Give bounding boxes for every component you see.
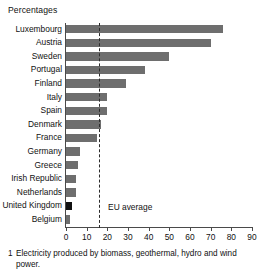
category-label: Irish Republic	[11, 172, 62, 185]
x-axis-tick	[128, 227, 129, 231]
bar	[66, 147, 80, 155]
bar	[66, 39, 211, 47]
bar	[66, 66, 145, 74]
bar	[66, 107, 107, 115]
bar	[66, 120, 101, 128]
bar	[66, 215, 70, 223]
category-label: Netherlands	[17, 186, 62, 199]
plot-area: LuxembourgAustriaSwedenPortugalFinlandIt…	[66, 23, 252, 227]
x-axis-tick	[252, 227, 253, 231]
category-label: Finland	[35, 77, 62, 90]
x-axis-tick-label: 0	[64, 232, 69, 242]
bar-row: Portugal	[66, 64, 252, 78]
category-label: Italy	[47, 91, 62, 104]
bar	[66, 52, 169, 60]
x-axis-tick	[107, 227, 108, 231]
eu-average-label: EU average	[108, 202, 152, 212]
bar-row: Italy	[66, 91, 252, 105]
category-label: Luxembourg	[15, 23, 62, 36]
x-axis-tick-label: 10	[82, 232, 91, 242]
x-axis-tick	[87, 227, 88, 231]
chart-figure: Percentages LuxembourgAustriaSwedenPortu…	[0, 0, 259, 273]
category-label: Austria	[36, 36, 62, 49]
bar	[66, 25, 223, 33]
category-label: Belgium	[32, 213, 62, 226]
bar	[66, 175, 76, 183]
bar-row: Austria	[66, 37, 252, 51]
x-axis-tick	[211, 227, 212, 231]
x-axis-tick-label: 80	[227, 232, 236, 242]
bar-row: France	[66, 132, 252, 146]
footnote-text: Electricity produced by biomass, geother…	[16, 249, 252, 270]
eu-average-line	[99, 23, 100, 228]
category-label: Sweden	[32, 50, 62, 63]
x-axis-tick-label: 30	[123, 232, 132, 242]
bar	[66, 93, 107, 101]
bar-row: Netherlands	[66, 186, 252, 200]
bar-row: Sweden	[66, 50, 252, 64]
x-axis-tick	[66, 227, 67, 231]
x-axis-tick	[149, 227, 150, 231]
x-axis-tick-label: 70	[206, 232, 215, 242]
bar	[66, 79, 126, 87]
bar-row: Denmark	[66, 118, 252, 132]
category-label: United Kingdom	[2, 199, 62, 212]
x-axis-tick-label: 50	[165, 232, 174, 242]
bar	[66, 188, 76, 196]
category-label: Spain	[41, 104, 62, 117]
footnote-marker: 1	[8, 249, 13, 260]
x-axis-tick	[231, 227, 232, 231]
category-label: Portugal	[31, 63, 62, 76]
x-axis-line	[65, 227, 253, 228]
bar-row: Germany	[66, 145, 252, 159]
category-label: Greece	[35, 159, 62, 172]
bar-row: Luxembourg	[66, 23, 252, 37]
bar-row: Irish Republic	[66, 173, 252, 187]
bar	[66, 202, 72, 210]
x-axis-tick-label: 60	[185, 232, 194, 242]
category-label: Denmark	[28, 118, 62, 131]
category-label: Germany	[28, 145, 62, 158]
bar-row: Spain	[66, 105, 252, 119]
x-axis-tick	[169, 227, 170, 231]
bar-row: Belgium	[66, 213, 252, 227]
x-axis-tick	[190, 227, 191, 231]
footnote: 1 Electricity produced by biomass, geoth…	[8, 249, 252, 270]
x-axis-tick-label: 20	[103, 232, 112, 242]
bar-row: Greece	[66, 159, 252, 173]
x-axis-tick-label: 90	[247, 232, 256, 242]
bar	[66, 134, 97, 142]
category-label: France	[36, 131, 62, 144]
x-axis-tick-label: 40	[144, 232, 153, 242]
bar-row: United Kingdom	[66, 200, 252, 214]
bar	[66, 161, 78, 169]
chart-subtitle: Percentages	[8, 5, 57, 15]
bar-row: Finland	[66, 77, 252, 91]
